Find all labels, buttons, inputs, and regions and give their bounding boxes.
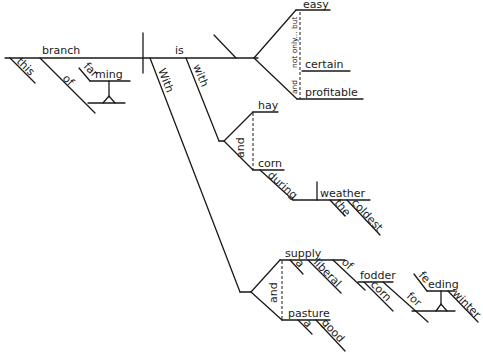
word-farming: ming xyxy=(95,68,123,81)
word-and-with: and xyxy=(234,137,247,158)
word-of: of xyxy=(60,72,77,89)
word-liberal: liberal xyxy=(311,256,344,290)
word-certain: certain xyxy=(305,58,343,71)
word-during: during xyxy=(265,169,300,202)
word-corn: corn xyxy=(258,157,282,170)
word-for: for xyxy=(404,290,424,310)
word-good: good xyxy=(319,316,347,345)
sentence-diagram: branch is this of far ming easy certain … xyxy=(0,0,483,357)
word-is: is xyxy=(175,44,184,57)
With-line xyxy=(150,58,240,292)
word-winter: winter xyxy=(450,287,483,321)
feeding-foot xyxy=(436,304,447,311)
word-coldest: coldest xyxy=(349,196,386,234)
word-easy: easy xyxy=(303,0,329,11)
predicate-adjective-slant xyxy=(214,35,236,58)
word-not-only-but: not only... but xyxy=(290,16,299,68)
word-feeding: eding xyxy=(428,278,459,291)
word-hay: hay xyxy=(258,99,279,112)
word-branch: branch xyxy=(42,44,80,57)
word-and-adj: and xyxy=(290,80,299,94)
hay-fork xyxy=(224,112,253,141)
word-and-With: and xyxy=(267,282,280,303)
word-profitable: profitable xyxy=(305,86,358,99)
word-of-fodder: of xyxy=(339,256,356,274)
